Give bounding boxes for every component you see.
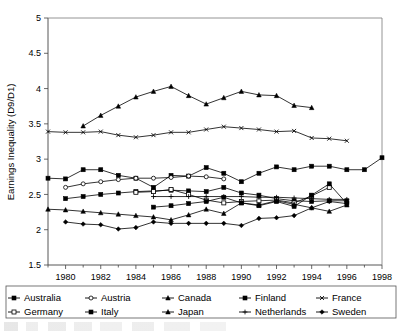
legend-item-canada[interactable]: Canada <box>162 292 212 303</box>
y-tick-label: 3 <box>36 154 41 164</box>
y-axis-title: Earnings Inequality (D9/D1) <box>5 84 16 201</box>
data-point-marker <box>151 176 155 180</box>
data-point-marker <box>204 221 209 226</box>
data-point-marker <box>151 220 156 225</box>
figure-container: Earnings Inequality (D9/D1) 54.543.532.5… <box>0 0 402 336</box>
series-netherlands <box>151 194 349 202</box>
data-point-marker <box>81 168 85 172</box>
data-point-marker <box>187 202 191 206</box>
x-tick-label: 1980 <box>56 272 76 282</box>
data-point-marker <box>64 185 68 189</box>
chart-legend: AustraliaAustriaCanadaFinlandFranceGerma… <box>6 286 396 318</box>
cropped-caption-text <box>4 322 244 331</box>
y-tick-label: 2 <box>36 225 41 235</box>
x-tick-label: 1988 <box>196 272 216 282</box>
series-layer <box>46 84 384 231</box>
data-point-marker <box>243 310 248 315</box>
data-point-marker <box>169 187 173 191</box>
data-point-marker <box>116 173 120 177</box>
y-tick-label: 3.5 <box>28 119 41 129</box>
legend-item-sweden[interactable]: Sweden <box>316 306 366 317</box>
legend-item-netherlands[interactable]: Netherlands <box>239 306 306 317</box>
data-point-marker <box>257 171 261 175</box>
data-point-marker <box>81 222 86 227</box>
x-tick-label: 1986 <box>161 272 181 282</box>
legend-item-austria[interactable]: Austria <box>85 292 131 303</box>
data-point-marker <box>243 296 247 300</box>
data-point-marker <box>99 168 103 172</box>
x-tick-label: 1990 <box>231 272 251 282</box>
data-point-marker <box>187 174 191 178</box>
data-point-marker <box>222 177 226 181</box>
legend-item-japan[interactable]: Japan <box>162 306 204 317</box>
series-line <box>136 187 329 203</box>
legend-label: Finland <box>255 292 286 303</box>
data-point-marker <box>134 225 139 230</box>
data-point-marker <box>98 222 103 227</box>
x-tick-label: 1996 <box>337 272 357 282</box>
y-tick-label: 1.5 <box>28 260 41 270</box>
data-point-marker <box>239 89 244 93</box>
legend-label: Netherlands <box>255 306 306 317</box>
series-australia <box>46 156 384 190</box>
y-tick-label: 2.5 <box>28 190 41 200</box>
y-axis-label: Earnings Inequality (D9/D1) <box>5 84 16 201</box>
data-point-marker <box>222 201 226 205</box>
series-line <box>153 197 346 200</box>
data-point-marker <box>116 191 120 195</box>
legend-item-france[interactable]: France <box>316 292 362 303</box>
legend-item-germany[interactable]: Germany <box>8 306 63 317</box>
x-tick-label: 1982 <box>91 272 111 282</box>
plot-axes <box>48 18 382 265</box>
legend-item-australia[interactable]: Australia <box>8 292 62 303</box>
series-line <box>48 127 347 141</box>
data-point-marker <box>274 215 279 220</box>
legend-label: Japan <box>178 306 204 317</box>
data-point-marker <box>89 310 93 314</box>
legend-label: Italy <box>101 306 119 317</box>
data-point-marker <box>169 194 174 199</box>
line-chart: Earnings Inequality (D9/D1) 54.543.532.5… <box>0 0 402 336</box>
data-point-marker <box>64 197 68 201</box>
data-point-marker <box>204 199 208 203</box>
legend-item-italy[interactable]: Italy <box>85 306 119 317</box>
y-tick-label: 5 <box>36 13 41 23</box>
data-point-marker <box>151 205 155 209</box>
y-axis-ticks: 54.543.532.521.5 <box>28 13 48 270</box>
data-point-marker <box>362 168 366 172</box>
data-point-marker <box>221 221 226 226</box>
x-tick-label: 1984 <box>126 272 146 282</box>
y-tick-label: 4 <box>36 84 41 94</box>
legend-label: Australia <box>24 292 62 303</box>
series-japan <box>46 198 349 221</box>
legend-label: Austria <box>101 292 131 303</box>
data-point-marker <box>292 213 297 218</box>
data-point-marker <box>151 190 155 194</box>
data-point-marker <box>12 296 16 300</box>
series-line <box>66 176 224 187</box>
data-point-marker <box>81 195 85 199</box>
data-point-marker <box>186 221 191 226</box>
data-point-marker <box>345 168 349 172</box>
data-point-marker <box>204 207 209 211</box>
data-point-marker <box>64 177 68 181</box>
data-point-marker <box>116 178 120 182</box>
x-tick-label: 1994 <box>302 272 322 282</box>
series-sweden <box>63 199 349 231</box>
data-point-marker <box>239 223 244 228</box>
data-point-marker <box>116 227 121 232</box>
data-point-marker <box>186 93 191 97</box>
data-point-marker <box>292 168 296 172</box>
data-point-marker <box>99 192 103 196</box>
data-point-marker <box>275 165 279 169</box>
data-point-marker <box>98 113 103 117</box>
series-line <box>48 158 382 188</box>
series-austria <box>64 174 226 189</box>
x-axis-ticks: 1980198219841986198819901992199419961998 <box>48 265 392 282</box>
data-point-marker <box>204 190 208 194</box>
series-canada <box>81 84 314 128</box>
legend-item-finland[interactable]: Finland <box>239 292 286 303</box>
data-point-marker <box>327 182 331 186</box>
series-france <box>46 125 349 143</box>
data-point-marker <box>310 164 314 168</box>
